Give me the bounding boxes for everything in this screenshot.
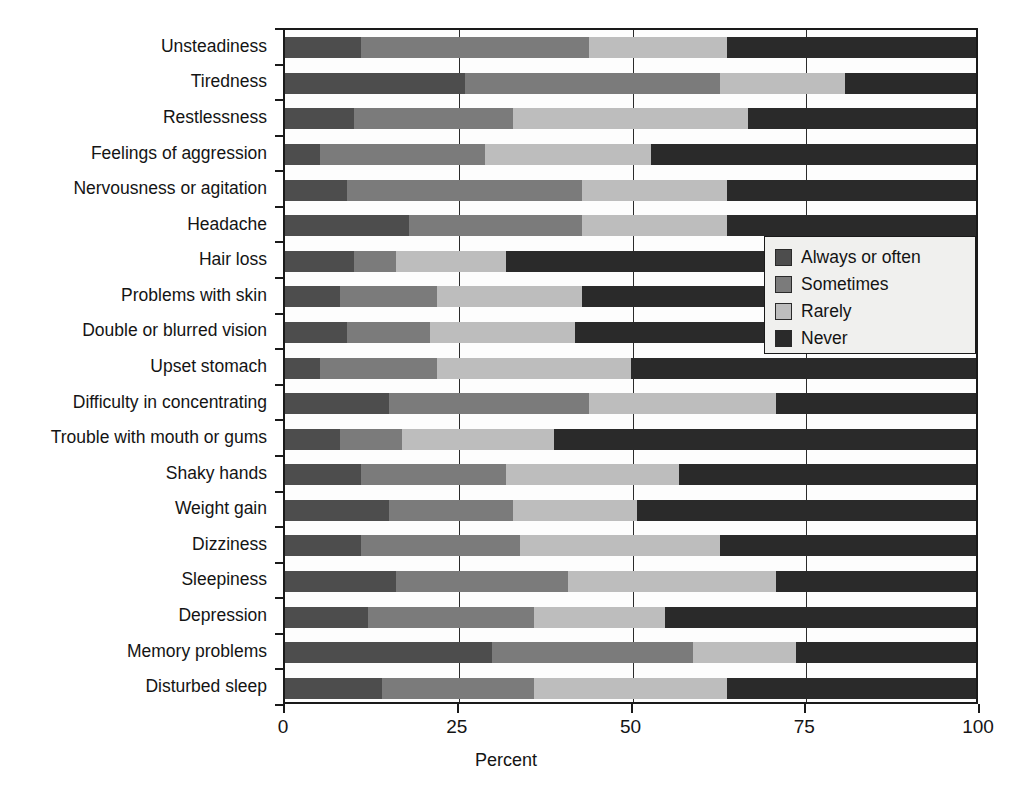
bar-segment-rarely xyxy=(485,144,651,165)
bar-segment-sometimes xyxy=(382,678,534,699)
bar-segment-never xyxy=(665,607,976,628)
x-axis-tick-25 xyxy=(457,704,459,713)
y-axis-tick xyxy=(275,99,283,101)
x-axis: 0255075100 xyxy=(283,704,978,705)
bar-segment-sometimes xyxy=(396,571,569,592)
bar-segment-never xyxy=(748,108,976,129)
bar-segment-always xyxy=(285,251,354,272)
y-axis-tick xyxy=(275,597,283,599)
y-axis-tick xyxy=(275,28,283,30)
bar-segment-never xyxy=(651,144,976,165)
bar-segment-rarely xyxy=(396,251,507,272)
y-axis-label: Disturbed sleep xyxy=(145,676,267,697)
bar-segment-sometimes xyxy=(361,37,589,58)
x-axis-tick-0 xyxy=(283,704,285,713)
bar-segment-rarely xyxy=(430,322,575,343)
x-axis-tick-label-100: 100 xyxy=(962,716,994,738)
bar-segment-sometimes xyxy=(361,535,520,556)
bar-segment-never xyxy=(727,215,976,236)
x-axis-tick-label-25: 25 xyxy=(446,716,467,738)
bar-segment-always xyxy=(285,642,492,663)
bar-segment-never xyxy=(776,571,976,592)
y-axis-label: Restlessness xyxy=(163,107,267,128)
bar-segment-never xyxy=(720,535,976,556)
y-axis-tick xyxy=(275,241,283,243)
legend-label-rarely: Rarely xyxy=(801,301,852,322)
bar-segment-always xyxy=(285,500,389,521)
stacked-bar-chart: UnsteadinessTirednessRestlessnessFeeling… xyxy=(0,0,1012,791)
x-axis-tick-label-75: 75 xyxy=(794,716,815,738)
x-axis-tick-label-50: 50 xyxy=(620,716,641,738)
bar-segment-always xyxy=(285,358,320,379)
bar-row xyxy=(285,180,976,201)
x-axis-tick-100 xyxy=(978,704,980,713)
y-axis-tick xyxy=(275,135,283,137)
y-axis-tick xyxy=(275,206,283,208)
bar-segment-always xyxy=(285,322,347,343)
bar-row xyxy=(285,393,976,414)
legend-label-always-or-often: Always or often xyxy=(801,247,921,268)
y-axis-label: Double or blurred vision xyxy=(82,320,267,341)
bar-segment-never xyxy=(631,358,977,379)
bar-row xyxy=(285,144,976,165)
bar-rows xyxy=(285,30,976,702)
y-axis-labels: UnsteadinessTirednessRestlessnessFeeling… xyxy=(0,0,275,791)
bar-segment-always xyxy=(285,286,340,307)
bar-row xyxy=(285,215,976,236)
bar-segment-rarely xyxy=(513,108,748,129)
legend-label-sometimes: Sometimes xyxy=(801,274,889,295)
bar-row xyxy=(285,571,976,592)
bar-segment-sometimes xyxy=(347,322,430,343)
bar-segment-always xyxy=(285,37,361,58)
bar-segment-always xyxy=(285,429,340,450)
legend-item-sometimes: Sometimes xyxy=(775,271,975,298)
y-axis-tick xyxy=(275,455,283,457)
bar-segment-rarely xyxy=(437,286,582,307)
bar-row xyxy=(285,535,976,556)
bar-segment-rarely xyxy=(437,358,630,379)
y-axis-tick xyxy=(275,562,283,564)
y-axis-tick xyxy=(275,170,283,172)
bar-segment-rarely xyxy=(506,464,679,485)
bar-segment-rarely xyxy=(520,535,720,556)
y-axis-tick xyxy=(275,491,283,493)
legend-swatch-always-or-often xyxy=(775,249,792,266)
y-axis-tick xyxy=(275,633,283,635)
y-axis-label: Feelings of aggression xyxy=(91,143,267,164)
bar-segment-rarely xyxy=(582,180,727,201)
y-axis-tick xyxy=(275,384,283,386)
bar-segment-sometimes xyxy=(368,607,534,628)
bar-row xyxy=(285,642,976,663)
bar-segment-always xyxy=(285,215,409,236)
y-axis-label: Trouble with mouth or gums xyxy=(51,427,267,448)
bar-segment-sometimes xyxy=(354,108,513,129)
bar-segment-sometimes xyxy=(465,73,721,94)
y-axis-label: Difficulty in concentrating xyxy=(73,392,267,413)
x-axis-title: Percent xyxy=(0,750,1012,771)
bar-segment-rarely xyxy=(693,642,797,663)
y-axis-tick xyxy=(275,277,283,279)
bar-segment-sometimes xyxy=(409,215,582,236)
bar-segment-never xyxy=(554,429,976,450)
legend-item-rarely: Rarely xyxy=(775,298,975,325)
x-axis-tick-50 xyxy=(631,704,633,713)
legend-swatch-never xyxy=(775,330,792,347)
y-axis-tick xyxy=(275,704,283,706)
x-axis-tick-75 xyxy=(804,704,806,713)
y-axis-label: Dizziness xyxy=(192,534,267,555)
bar-segment-never xyxy=(776,393,976,414)
bar-segment-never xyxy=(727,37,976,58)
bar-segment-rarely xyxy=(534,607,665,628)
bar-segment-sometimes xyxy=(354,251,395,272)
bar-segment-always xyxy=(285,180,347,201)
y-axis-label: Shaky hands xyxy=(166,463,267,484)
bar-segment-rarely xyxy=(589,37,727,58)
y-axis-label: Depression xyxy=(178,605,267,626)
bar-row xyxy=(285,37,976,58)
bar-segment-rarely xyxy=(402,429,554,450)
bar-segment-sometimes xyxy=(340,286,437,307)
bar-row xyxy=(285,607,976,628)
bar-segment-always xyxy=(285,571,396,592)
y-axis-label: Memory problems xyxy=(127,641,267,662)
bar-segment-sometimes xyxy=(389,500,513,521)
